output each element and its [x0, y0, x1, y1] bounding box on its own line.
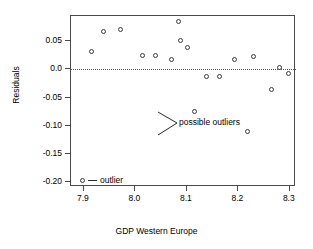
x-axis-label: GDP Western Europe	[0, 226, 313, 236]
y-axis-tick-label: 0.0	[0, 63, 62, 73]
data-point	[118, 27, 123, 32]
data-point	[286, 71, 291, 76]
x-axis-tick-label: 8.0	[114, 193, 154, 203]
data-point	[232, 57, 237, 62]
zero-reference-line	[71, 69, 296, 70]
x-axis-tick-label: 7.9	[63, 193, 103, 203]
scatter-plot-figure: Residuals GDP Western Europe 7.98.08.18.…	[0, 0, 313, 249]
possible-outliers-annotation: possible outliers	[179, 117, 240, 127]
x-axis-tick	[289, 186, 290, 191]
data-point	[140, 53, 145, 58]
legend-outlier-marker-icon	[80, 178, 85, 183]
x-axis-tick	[134, 186, 135, 191]
data-point	[176, 19, 181, 24]
data-point	[185, 45, 190, 50]
plot-area	[70, 15, 295, 186]
legend-outlier-label: outlier	[100, 175, 123, 185]
x-axis-tick	[237, 186, 238, 191]
possible-outliers-bracket-icon	[157, 110, 181, 137]
x-axis-tick	[186, 186, 187, 191]
data-point	[251, 54, 256, 59]
data-point	[217, 74, 222, 79]
y-axis-tick-label: -0.20	[0, 176, 62, 186]
data-point	[204, 74, 209, 79]
y-axis-tick-label: -0.05	[0, 92, 62, 102]
y-axis-tick-label: -0.15	[0, 148, 62, 158]
x-axis-tick	[83, 186, 84, 191]
x-axis-tick-label: 8.1	[166, 193, 206, 203]
legend-outlier-dash-icon	[88, 180, 97, 181]
x-axis-tick-label: 8.3	[269, 193, 309, 203]
data-point	[101, 29, 106, 34]
data-point	[153, 53, 158, 58]
data-point	[277, 65, 282, 70]
data-point	[169, 57, 174, 62]
data-point	[192, 109, 197, 114]
data-point	[89, 49, 94, 54]
x-axis-tick-label: 8.2	[217, 193, 257, 203]
data-point	[178, 38, 183, 43]
data-point	[245, 129, 250, 134]
y-axis-tick-label: -0.10	[0, 120, 62, 130]
y-axis-tick-label: 0.05	[0, 35, 62, 45]
data-point	[269, 87, 274, 92]
